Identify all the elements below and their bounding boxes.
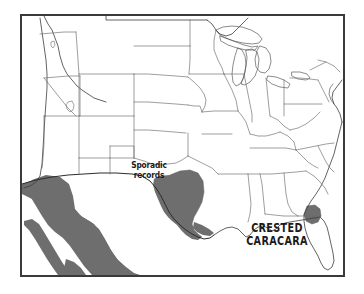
map-frame: Sporadic records CRESTED CARACARA bbox=[20, 14, 345, 277]
range-map-figure: Sporadic records CRESTED CARACARA bbox=[0, 0, 364, 294]
map-canvas bbox=[22, 16, 343, 275]
